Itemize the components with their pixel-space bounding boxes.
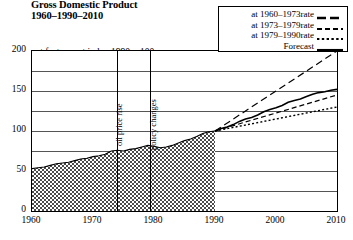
page-title: Gross Domestic Product (31, 0, 137, 11)
legend-key-solid (317, 41, 343, 51)
annotation-oil-price-rise: oil price rise (114, 104, 124, 146)
legend-label-3: Forecast (284, 41, 315, 51)
annotation-policy-changes: policy changes (148, 99, 158, 150)
y-axis-label-200: 200 (0, 45, 26, 55)
legend-key-medium-dash (317, 20, 343, 30)
x-axis-label-2010: 2010 (313, 216, 353, 226)
y-axis-label-0: 0 (0, 205, 26, 215)
x-axis-label-2000: 2000 (252, 216, 298, 226)
legend-item-2: at 1979–1990rate (223, 30, 343, 41)
series-1973-1979-rate (215, 95, 337, 131)
chart-figure: Gross Domestic Product 1960–1990–2010 at… (0, 0, 353, 240)
x-axis-label-1990: 1990 (191, 216, 237, 226)
x-axis-label-1970: 1970 (69, 216, 115, 226)
chart-title-block: Gross Domestic Product 1960–1990–2010 (31, 0, 137, 21)
x-axis-label-1960: 1960 (8, 216, 54, 226)
legend-item-1: at 1973–1979rate (223, 20, 343, 31)
legend-key-dotted (317, 30, 343, 40)
legend-label-0: at 1960–1973rate (251, 9, 314, 19)
legend-item-3: Forecast (223, 41, 343, 52)
chart-title-years: 1960–1990–2010 (31, 11, 137, 22)
y-axis-label-150: 150 (0, 85, 26, 95)
plot-svg (32, 51, 337, 211)
y-axis-label-50: 50 (0, 165, 26, 175)
legend-key-long-dash (317, 9, 343, 19)
chart-legend: at 1960–1973rate at 1973–1979rate at 197… (218, 6, 348, 52)
plot-area (31, 50, 338, 212)
legend-item-0: at 1960–1973rate (223, 9, 343, 20)
legend-label-1: at 1973–1979rate (251, 20, 314, 30)
legend-label-2: at 1979–1990rate (251, 30, 314, 40)
y-axis-label-100: 100 (0, 125, 26, 135)
x-axis-label-1980: 1980 (130, 216, 176, 226)
